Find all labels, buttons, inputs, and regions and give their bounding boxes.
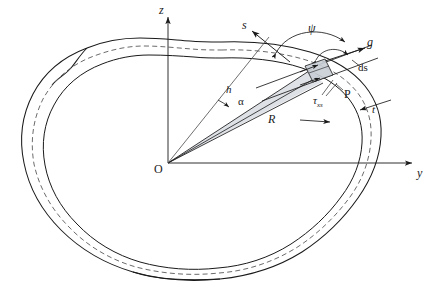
torsion-section-figure: z y O s g ds ψ h α R P t τxs [0, 0, 435, 288]
figure-drawing [0, 0, 435, 288]
tau-leader-2 [326, 83, 337, 96]
shaded-wedge [168, 69, 322, 163]
wedge-edge-upper [168, 69, 312, 163]
tau-leader-1 [322, 80, 333, 95]
radius-line-R [168, 76, 319, 163]
psi-angle-arc [276, 32, 345, 53]
R-pointer-arrow [300, 120, 330, 122]
outer-wall-wobble-bottom [133, 272, 220, 280]
thickness-leader-line [360, 100, 391, 110]
alpha-angle-arc [218, 100, 229, 107]
s-direction-arrow [252, 31, 290, 62]
wedge-edge-lower [168, 83, 323, 163]
